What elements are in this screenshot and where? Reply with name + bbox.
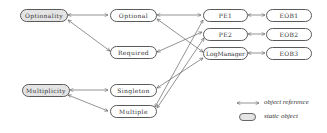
edge-multiple-pe1 [155,20,203,107]
legend-static-label: static object [264,112,298,120]
edge-optional-logmanager [157,19,203,52]
edge-multiplicity-multiple [68,95,108,111]
node-logmanager[interactable]: LogManager [203,47,248,60]
legend-static-swatch-icon [239,113,256,121]
node-pe2[interactable]: PE2 [203,28,248,41]
edge-singleton-logmanager [157,58,203,88]
node-required[interactable]: Required [110,46,157,59]
node-optional[interactable]: Optional [110,9,157,22]
node-pe1[interactable]: PE1 [203,9,248,22]
node-singleton[interactable]: Singleton [110,84,157,97]
legend-reference-label: object reference [264,98,309,106]
node-eob1[interactable]: EOB1 [266,9,312,22]
node-multiple[interactable]: Multiple [110,105,157,118]
edge-optionality-required [68,20,110,51]
node-eob3[interactable]: EOB3 [266,47,312,60]
node-optionality[interactable]: Optionality [20,9,68,22]
node-eob2[interactable]: EOB2 [266,28,312,41]
node-multiplicity[interactable]: Multiplicity [22,84,70,97]
